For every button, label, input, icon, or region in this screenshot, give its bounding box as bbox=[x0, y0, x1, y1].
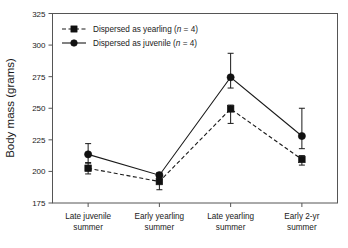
data-point-marker bbox=[85, 165, 92, 172]
x-axis-category-labels: Late juvenilesummerEarly yearlingsummerL… bbox=[65, 212, 320, 232]
legend-marker bbox=[71, 26, 77, 32]
legend-item: Dispersed as juvenile (n = 4) bbox=[62, 39, 197, 48]
chart-legend: Dispersed as yearling (n = 4)Dispersed a… bbox=[62, 25, 198, 48]
data-point-marker bbox=[227, 106, 234, 113]
y-tick-label: 200 bbox=[32, 167, 46, 176]
y-axis-ticks bbox=[49, 14, 53, 204]
data-point-marker bbox=[85, 151, 92, 158]
series-layer bbox=[85, 53, 306, 189]
legend-marker bbox=[71, 40, 78, 47]
y-tick-label: 300 bbox=[32, 41, 46, 50]
y-axis-tick-labels: 175200225250275300325 bbox=[32, 10, 46, 209]
body-mass-line-chart: 175200225250275300325 Late juvenilesumme… bbox=[0, 0, 348, 248]
x-category-label: Late juvenilesummer bbox=[65, 212, 111, 232]
series-line bbox=[88, 109, 302, 182]
y-tick-label: 275 bbox=[32, 73, 46, 82]
data-point-marker bbox=[156, 178, 163, 185]
series-line bbox=[88, 77, 302, 175]
y-tick-label: 325 bbox=[32, 10, 46, 19]
data-point-marker bbox=[298, 132, 305, 139]
series-yearling bbox=[85, 105, 305, 190]
legend-item: Dispersed as yearling (n = 4) bbox=[62, 25, 198, 34]
legend-label: Dispersed as yearling (n = 4) bbox=[93, 25, 198, 34]
series-juvenile bbox=[85, 53, 306, 179]
y-tick-label: 175 bbox=[32, 199, 46, 208]
error-bar bbox=[228, 53, 234, 88]
y-tick-label: 225 bbox=[32, 136, 46, 145]
data-point-marker bbox=[227, 74, 234, 81]
data-point-marker bbox=[299, 156, 306, 163]
data-point-marker bbox=[156, 172, 163, 179]
y-tick-label: 250 bbox=[32, 104, 46, 113]
x-axis-ticks bbox=[88, 203, 302, 207]
x-category-label: Late yearlingsummer bbox=[207, 212, 254, 232]
chart-figure: 175200225250275300325 Late juvenilesumme… bbox=[0, 0, 348, 248]
x-category-label: Early 2-yrsummer bbox=[284, 212, 319, 232]
legend-label: Dispersed as juvenile (n = 4) bbox=[93, 39, 197, 48]
y-axis-title: Body mass (grams) bbox=[4, 58, 16, 158]
error-bar bbox=[299, 108, 305, 148]
x-category-label: Early yearlingsummer bbox=[135, 212, 185, 232]
